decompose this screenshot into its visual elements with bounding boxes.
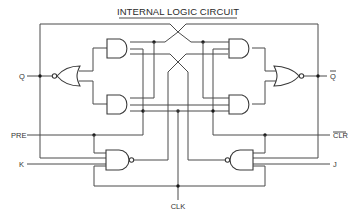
wire — [130, 49, 143, 111]
inversion-bubble — [299, 74, 303, 78]
wire-clr-to-nand — [253, 135, 265, 153]
wire — [203, 42, 229, 98]
q-bar-output: Q — [304, 71, 336, 81]
inversion-bubble — [129, 158, 133, 162]
junction-dot — [38, 74, 41, 77]
wire — [178, 62, 188, 111]
nor-body — [57, 66, 80, 86]
pre-input: PRE — [11, 131, 143, 153]
wire-pre-to-nand — [94, 135, 106, 153]
wire-to-and-ll — [93, 81, 107, 104]
wire-to-nor-right — [252, 48, 276, 71]
nor-gate-right — [274, 66, 304, 86]
k-label: K — [19, 160, 24, 169]
nand-body — [106, 150, 129, 170]
q-label: Q — [19, 72, 25, 81]
title-text: INTERNAL LOGIC CIRCUIT — [117, 6, 239, 17]
crossing-wires — [143, 32, 228, 200]
q-output: Q — [19, 72, 52, 81]
and-gate-lower-left — [107, 42, 225, 135]
wire — [130, 111, 143, 135]
junction-dot — [211, 109, 214, 112]
pre-label: PRE — [11, 131, 26, 140]
and-body — [107, 39, 127, 58]
wire-to-and-ul — [93, 48, 107, 71]
wire — [130, 42, 154, 98]
wire — [168, 62, 178, 111]
inversion-bubble — [52, 74, 56, 78]
j-label: J — [333, 160, 337, 169]
junction-dot — [316, 74, 319, 77]
nor-gate-left — [52, 48, 107, 104]
junction-dot — [176, 184, 179, 187]
wire-qbar-feedback — [253, 130, 318, 158]
and-body — [229, 95, 249, 114]
clr-input: CLR — [213, 131, 349, 153]
nand-gate-left — [94, 111, 178, 186]
inversion-bubble — [225, 158, 229, 162]
q-bar-label: Q — [330, 72, 336, 81]
diagram-title: INTERNAL LOGIC CIRCUIT — [117, 6, 239, 18]
nor-body — [274, 66, 299, 86]
and-body — [229, 39, 249, 58]
outer-feedback-loop — [40, 24, 318, 130]
logic-circuit-diagram: INTERNAL LOGIC CIRCUIT Q — [0, 0, 356, 222]
and-body — [107, 95, 127, 114]
wire-q-feedback — [40, 130, 106, 158]
clk-label: CLK — [171, 202, 186, 211]
wire — [178, 32, 203, 42]
wire-to-nor-right — [252, 81, 276, 104]
nand-gate-right — [178, 111, 265, 186]
nand-body — [230, 150, 253, 170]
